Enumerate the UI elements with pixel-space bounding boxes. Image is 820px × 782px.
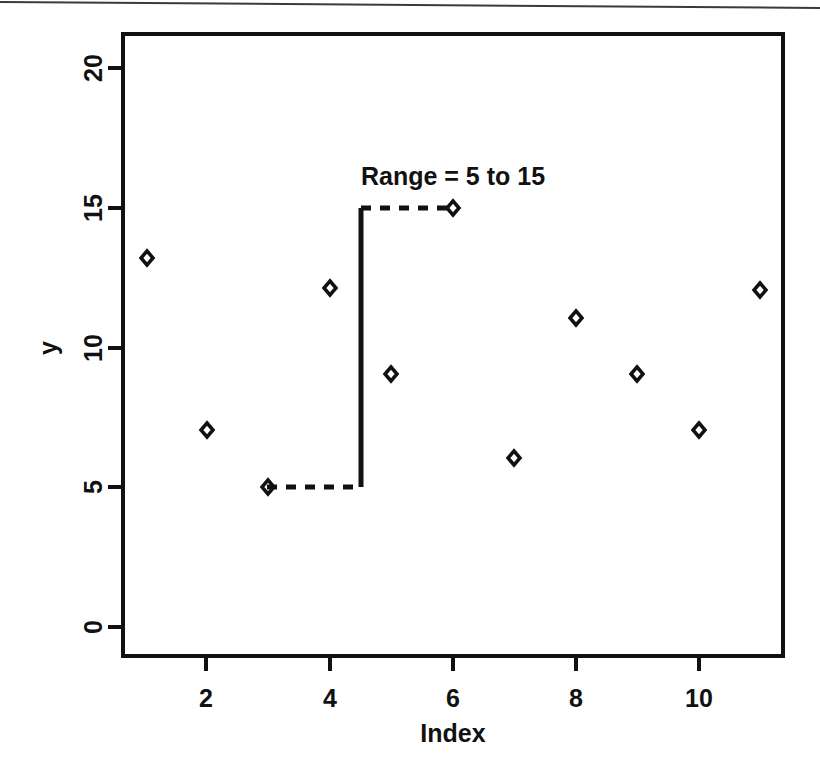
x-tick-label-4: 4: [323, 684, 337, 712]
y-tick-label-5: 5: [79, 480, 107, 494]
data-point: [385, 367, 397, 381]
x-axis-ticks: [206, 656, 699, 671]
y-axis-ticks: [108, 68, 123, 627]
y-tick-label-10: 10: [79, 334, 107, 362]
scatter-plot: 0 5 10 15 20 y 2 4 6 8 10 Index: [0, 0, 820, 782]
data-point: [201, 423, 213, 437]
data-point: [324, 281, 336, 295]
x-tick-label-10: 10: [685, 684, 713, 712]
data-point-group: [141, 201, 766, 494]
data-point: [754, 283, 766, 297]
data-point: [693, 423, 705, 437]
y-tick-label-0: 0: [79, 620, 107, 634]
x-axis-title: Index: [420, 719, 485, 747]
y-tick-label-15: 15: [79, 194, 107, 222]
y-axis-title: y: [34, 341, 62, 355]
range-annotation-label: Range = 5 to 15: [361, 162, 545, 190]
x-tick-label-2: 2: [199, 684, 213, 712]
range-overlay: [267, 208, 453, 487]
y-tick-label-20: 20: [79, 54, 107, 82]
data-point: [141, 251, 153, 265]
x-tick-label-6: 6: [446, 684, 460, 712]
y-axis-tick-labels: 0 5 10 15 20: [79, 54, 107, 634]
data-point: [631, 367, 643, 381]
x-axis-tick-labels: 2 4 6 8 10: [199, 684, 713, 712]
data-point: [570, 311, 582, 325]
plot-frame: [123, 34, 783, 656]
figure-page: 0 5 10 15 20 y 2 4 6 8 10 Index: [0, 0, 820, 782]
data-point: [508, 451, 520, 465]
x-tick-label-8: 8: [569, 684, 583, 712]
